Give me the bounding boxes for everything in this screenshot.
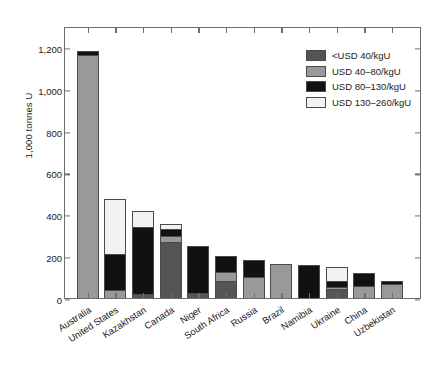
- bar-segment: [215, 256, 237, 272]
- y-tick-label: 200: [46, 253, 62, 264]
- legend-swatch: [306, 50, 326, 61]
- y-tick-mark-right: [415, 258, 420, 259]
- bar-south-africa[interactable]: [215, 256, 237, 298]
- legend-label: <USD 40/kgU: [332, 50, 390, 61]
- x-tick-mark: [115, 293, 116, 298]
- y-tick-mark: [65, 258, 70, 259]
- top-tick-mark: [115, 28, 116, 33]
- y-tick-label: 400: [46, 211, 62, 222]
- bar-segment: [104, 254, 126, 290]
- y-tick-mark-right: [415, 90, 420, 91]
- legend-label: USD 80–130/kgU: [332, 81, 406, 92]
- bar-segment: [104, 199, 126, 255]
- bar-segment: [187, 246, 209, 293]
- y-tick-mark: [65, 216, 70, 217]
- y-tick-label: 1,000: [38, 85, 62, 96]
- top-tick-mark: [392, 28, 393, 33]
- y-tick-mark: [65, 48, 70, 49]
- y-tick-mark: [65, 299, 70, 300]
- x-tick-mark: [309, 293, 310, 298]
- top-tick-mark: [143, 28, 144, 33]
- x-tick-mark: [143, 293, 144, 298]
- bar-kazakhstan[interactable]: [132, 211, 154, 298]
- y-tick-mark-right: [415, 174, 420, 175]
- top-tick-mark: [281, 28, 282, 33]
- y-tick-mark-right: [415, 48, 420, 49]
- y-tick-mark-right: [415, 132, 420, 133]
- bar-segment: [77, 55, 99, 298]
- legend-swatch: [306, 81, 326, 92]
- legend-item[interactable]: USD 130–260/kgU: [306, 97, 411, 108]
- bar-segment: [132, 211, 154, 228]
- x-tick-mark: [254, 293, 255, 298]
- y-tick-mark-right: [415, 299, 420, 300]
- y-tick-label: 0: [57, 295, 62, 306]
- y-tick-label: 800: [46, 127, 62, 138]
- bar-united-states[interactable]: [104, 199, 126, 298]
- top-tick-mark: [171, 28, 172, 33]
- y-tick-mark: [65, 132, 70, 133]
- top-tick-mark: [254, 28, 255, 33]
- legend-label: USD 40–80/kgU: [332, 66, 401, 77]
- bar-australia[interactable]: [77, 51, 99, 298]
- bar-canada[interactable]: [160, 224, 182, 298]
- y-tick-label: 600: [46, 169, 62, 180]
- bar-segment: [132, 227, 154, 294]
- x-tick-mark: [281, 293, 282, 298]
- top-tick-mark: [309, 28, 310, 33]
- y-tick-mark-right: [415, 216, 420, 217]
- top-tick-mark: [198, 28, 199, 33]
- x-tick-mark: [337, 293, 338, 298]
- legend-item[interactable]: USD 40–80/kgU: [306, 66, 411, 77]
- x-tick-mark: [364, 293, 365, 298]
- bar-segment: [243, 260, 265, 277]
- legend-item[interactable]: <USD 40/kgU: [306, 50, 411, 61]
- bar-segment: [215, 272, 237, 281]
- top-tick-mark: [226, 28, 227, 33]
- bar-segment: [353, 273, 375, 286]
- y-axis-title: 1,000 tonnes U: [23, 46, 34, 206]
- legend-label: USD 130–260/kgU: [332, 97, 411, 108]
- x-tick-mark: [392, 293, 393, 298]
- legend-item[interactable]: USD 80–130/kgU: [306, 81, 411, 92]
- bar-segment: [160, 242, 182, 298]
- y-tick-mark: [65, 90, 70, 91]
- legend-swatch: [306, 97, 326, 108]
- x-tick-mark: [198, 293, 199, 298]
- y-tick-label: 1,200: [38, 43, 62, 54]
- x-tick-mark: [226, 293, 227, 298]
- top-tick-mark: [364, 28, 365, 33]
- bar-niger[interactable]: [187, 246, 209, 298]
- x-tick-mark: [88, 293, 89, 298]
- y-tick-mark: [65, 174, 70, 175]
- uranium-resources-chart: 1,000 tonnes U 02004006008001,0001,200 A…: [0, 0, 440, 366]
- x-tick-mark: [171, 293, 172, 298]
- top-tick-mark: [337, 28, 338, 33]
- legend-swatch: [306, 66, 326, 77]
- chart-legend: <USD 40/kgUUSD 40–80/kgUUSD 80–130/kgUUS…: [306, 50, 411, 108]
- bar-segment: [326, 267, 348, 281]
- top-tick-mark: [88, 28, 89, 33]
